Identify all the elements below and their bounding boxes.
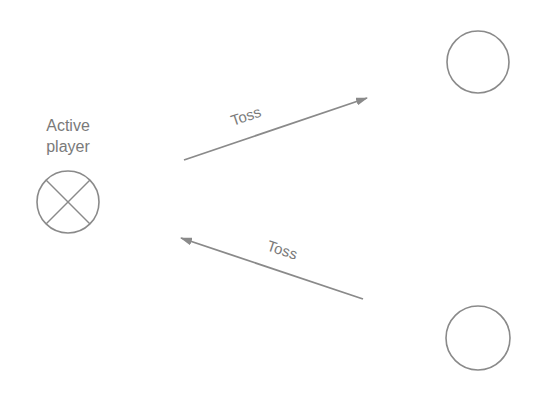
toss-diagram: Active player Toss Toss <box>0 0 533 393</box>
active-player-label-line2: player <box>46 138 90 155</box>
active-player-label-line1: Active <box>46 117 90 134</box>
circle-icon <box>446 306 510 370</box>
arrow-right-icon <box>184 98 367 160</box>
toss-label-top: Toss <box>229 103 264 129</box>
toss-label-bottom: Toss <box>265 237 300 263</box>
circle-icon <box>447 31 509 93</box>
crossed-circle-icon <box>37 171 99 233</box>
